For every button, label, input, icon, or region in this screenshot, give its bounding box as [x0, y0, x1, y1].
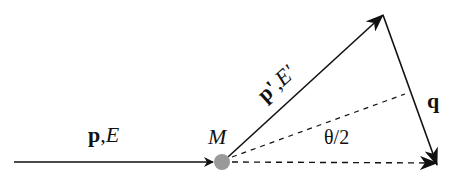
- bisector-dashed-line: [232, 94, 405, 157]
- momentum-transfer-label: q: [427, 90, 439, 112]
- scattering-diagram: p,E M p',E' q θ/2: [0, 0, 460, 185]
- diagram-graphics: [0, 0, 460, 185]
- outgoing-momentum-arrow: [228, 15, 383, 157]
- target-label: M: [208, 126, 226, 148]
- incoming-energy-label: E: [106, 122, 119, 147]
- incoming-momentum-label: p: [88, 122, 100, 147]
- forward-direction-dashed-line: [232, 162, 437, 163]
- half-angle-label: θ/2: [324, 127, 349, 147]
- target-mass-icon: [214, 154, 230, 170]
- incoming-label: p,E: [88, 124, 119, 146]
